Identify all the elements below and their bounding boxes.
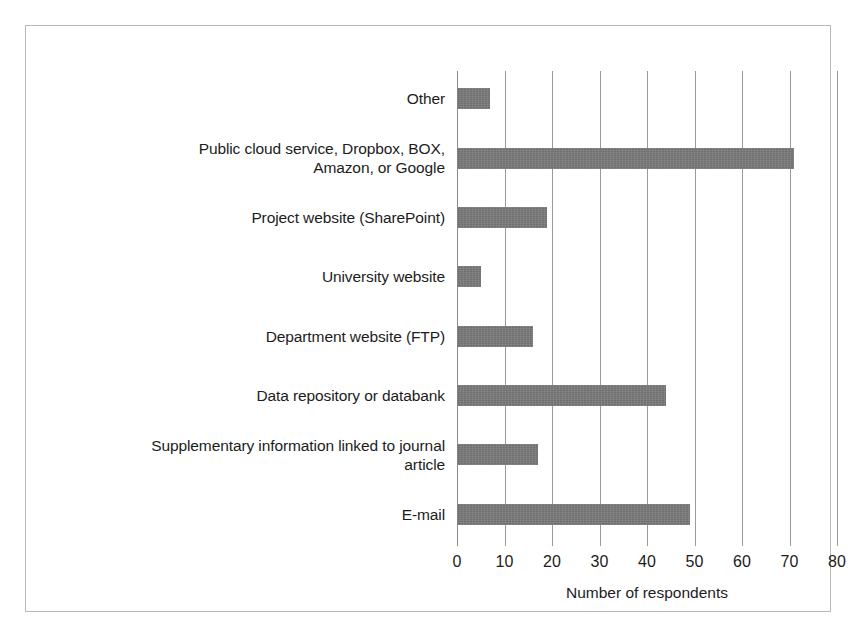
gridline-50	[695, 71, 696, 546]
category-label: Public cloud service, Dropbox, BOX,Amazo…	[55, 139, 445, 177]
category-label: University website	[55, 267, 445, 286]
gridline-70	[790, 71, 791, 546]
category-label-line: Supplementary information linked to jour…	[55, 436, 445, 455]
gridline-80	[837, 71, 838, 546]
bar	[457, 385, 666, 406]
x-axis-tick-labels: 01020304050607080	[457, 553, 837, 577]
category-label-line: Amazon, or Google	[55, 158, 445, 177]
bar	[457, 88, 490, 109]
x-tick-label-30: 30	[591, 553, 609, 571]
gridline-40	[647, 71, 648, 546]
bar	[457, 266, 481, 287]
bar	[457, 326, 533, 347]
bar	[457, 444, 538, 465]
category-label: Department website (FTP)	[55, 327, 445, 346]
gridline-0	[457, 71, 458, 546]
x-tick-label-10: 10	[496, 553, 514, 571]
x-axis-title: Number of respondents	[457, 584, 837, 602]
gridline-60	[742, 71, 743, 546]
x-tick-label-80: 80	[828, 553, 846, 571]
gridline-20	[552, 71, 553, 546]
category-label: Project website (SharePoint)	[55, 208, 445, 227]
x-tick-label-40: 40	[638, 553, 656, 571]
x-tick-label-20: 20	[543, 553, 561, 571]
category-label-line: Data repository or databank	[55, 386, 445, 405]
gridline-10	[505, 71, 506, 546]
category-label-line: University website	[55, 267, 445, 286]
category-axis-labels: OtherPublic cloud service, Dropbox, BOX,…	[56, 71, 451, 546]
gridline-30	[600, 71, 601, 546]
category-label: E-mail	[55, 505, 445, 524]
bar	[457, 207, 547, 228]
bar	[457, 504, 690, 525]
category-label-line: E-mail	[55, 505, 445, 524]
plot-area	[457, 71, 837, 546]
category-label-line: Public cloud service, Dropbox, BOX,	[55, 139, 445, 158]
category-label: Other	[55, 89, 445, 108]
figure-border: OtherPublic cloud service, Dropbox, BOX,…	[25, 25, 831, 612]
category-label-line: Department website (FTP)	[55, 327, 445, 346]
category-label: Supplementary information linked to jour…	[55, 436, 445, 474]
x-tick-label-60: 60	[733, 553, 751, 571]
bar	[457, 148, 794, 169]
x-tick-label-50: 50	[686, 553, 704, 571]
category-label: Data repository or databank	[55, 386, 445, 405]
category-label-line: Project website (SharePoint)	[55, 208, 445, 227]
category-label-line: Other	[55, 89, 445, 108]
category-label-line: article	[55, 455, 445, 474]
chart-figure: OtherPublic cloud service, Dropbox, BOX,…	[0, 0, 854, 637]
x-tick-label-70: 70	[781, 553, 799, 571]
x-tick-label-0: 0	[453, 553, 462, 571]
